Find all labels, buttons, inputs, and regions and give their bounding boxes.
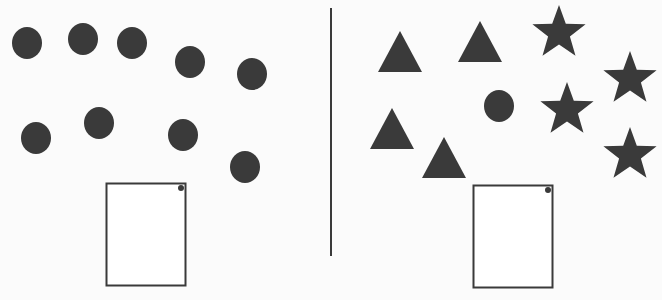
star-shape <box>603 127 656 178</box>
circle-shape <box>168 119 198 151</box>
circle-shape <box>230 151 260 183</box>
triangle-shape <box>378 31 422 72</box>
circle-shape <box>175 46 205 78</box>
circle-shape <box>68 23 98 55</box>
left-answer-box[interactable] <box>107 184 186 286</box>
right-answer-box[interactable] <box>474 186 553 288</box>
triangle-shape <box>458 21 502 62</box>
corner-dot <box>545 187 551 193</box>
circle-shape <box>21 122 51 154</box>
right-shape-group <box>370 5 657 178</box>
star-shape <box>603 51 656 102</box>
circle-shape <box>237 58 267 90</box>
circle-shape <box>117 27 147 59</box>
circle-shape <box>12 27 42 59</box>
corner-dot <box>178 185 184 191</box>
circle-shape <box>84 107 114 139</box>
triangle-shape <box>370 108 414 149</box>
left-shape-group <box>12 23 267 183</box>
star-shape <box>540 82 593 133</box>
star-shape <box>532 5 585 56</box>
circle-shape <box>484 90 514 122</box>
triangle-shape <box>422 137 466 178</box>
worksheet-canvas <box>0 0 662 300</box>
